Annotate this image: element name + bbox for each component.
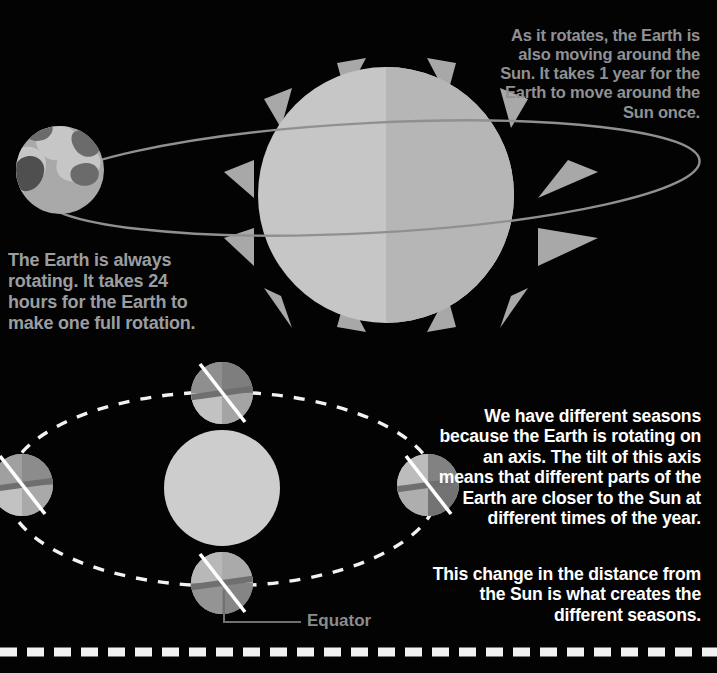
- earth-season-bottom: [191, 552, 253, 614]
- infographic-canvas: As it rotates, the Earth is also moving …: [0, 0, 717, 673]
- sun-ray-icon: [224, 160, 254, 198]
- annotation-rotates: As it rotates, the Earth is also moving …: [495, 26, 700, 122]
- sun-top: [258, 60, 521, 340]
- earth-season-top: [191, 362, 253, 424]
- annotation-earth-rotating: The Earth is always rotating. It takes 2…: [8, 250, 208, 334]
- annotation-seasons: We have different seasons because the Ea…: [425, 406, 701, 528]
- equator-leader-horizontal: [223, 621, 301, 623]
- equator-label: Equator: [307, 611, 371, 631]
- sun-ray-icon: [500, 288, 528, 328]
- equator-leader-vertical: [223, 590, 225, 623]
- annotation-distance: This change in the distance from the Sun…: [425, 564, 701, 625]
- earth-orbiting: [9, 118, 105, 214]
- sun-ray-icon: [538, 228, 598, 266]
- sun-ray-icon: [538, 160, 598, 198]
- sun-ray-icon: [264, 288, 292, 328]
- earth-season-left: [0, 454, 53, 516]
- sun-center: [164, 430, 280, 546]
- sun-ray-icon: [224, 228, 254, 266]
